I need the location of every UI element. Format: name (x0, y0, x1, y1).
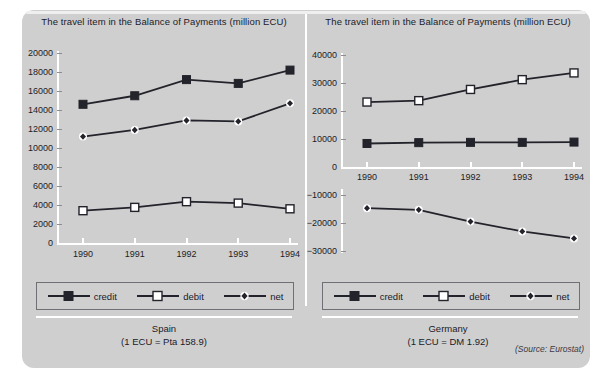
legend-spain: credit debit net (36, 282, 294, 310)
data-point-credit (183, 76, 191, 84)
legend-label-net: net (270, 291, 283, 302)
legend-germany: credit debit net (322, 282, 580, 310)
legend-label-credit: credit (380, 291, 403, 302)
legend-item-net[interactable]: net (509, 290, 569, 302)
plot-area-germany: −30000−20000−100000100002000030000400001… (306, 0, 590, 270)
data-point-credit (467, 138, 475, 146)
caption-spain-rate: (1 ECU = Pta 158.9) (22, 335, 306, 348)
filled-square-marker-icon (47, 290, 91, 302)
legend-item-net[interactable]: net (223, 290, 283, 302)
legend-item-debit[interactable]: debit (422, 290, 490, 302)
legend-label-net: net (556, 291, 569, 302)
series-layer (306, 0, 590, 270)
data-point-credit (286, 66, 294, 74)
data-point-debit (363, 98, 371, 106)
panel-spain: The travel item in the Balance of Paymen… (22, 0, 306, 358)
data-point-credit (518, 138, 526, 146)
legend-label-debit: debit (469, 291, 490, 302)
panel-germany: The travel item in the Balance of Paymen… (306, 0, 590, 358)
caption-spain-country: Spain (22, 322, 306, 335)
small-diamond-marker-icon (223, 290, 267, 302)
open-square-marker-icon (422, 290, 466, 302)
caption-germany-country: Germany (306, 322, 590, 335)
filled-square-marker-icon (333, 290, 377, 302)
legend-rule-germany (322, 316, 578, 318)
data-point-credit (79, 100, 87, 108)
data-point-debit (131, 203, 139, 211)
data-point-credit (234, 79, 242, 87)
legend-rule-spain (36, 316, 292, 318)
data-point-credit (131, 92, 139, 100)
data-point-debit (234, 199, 242, 207)
open-square-marker-icon (136, 290, 180, 302)
data-point-debit (467, 85, 475, 93)
data-point-credit (415, 139, 423, 147)
data-point-debit (570, 69, 578, 77)
plot-area-spain: 0200040006000800010000120001400016000180… (22, 0, 306, 270)
legend-item-credit[interactable]: credit (47, 290, 117, 302)
source-note: (Source: Eurostat) (515, 344, 584, 354)
data-point-debit (518, 76, 526, 84)
data-point-credit (363, 139, 371, 147)
series-layer (22, 0, 306, 270)
data-point-debit (79, 207, 87, 215)
data-point-debit (415, 97, 423, 105)
figure-root: The travel item in the Balance of Paymen… (0, 0, 612, 380)
data-point-debit (286, 205, 294, 213)
small-diamond-marker-icon (509, 290, 553, 302)
legend-item-debit[interactable]: debit (136, 290, 204, 302)
data-point-credit (570, 138, 578, 146)
legend-label-credit: credit (94, 291, 117, 302)
legend-item-credit[interactable]: credit (333, 290, 403, 302)
legend-label-debit: debit (183, 291, 204, 302)
data-point-debit (183, 198, 191, 206)
